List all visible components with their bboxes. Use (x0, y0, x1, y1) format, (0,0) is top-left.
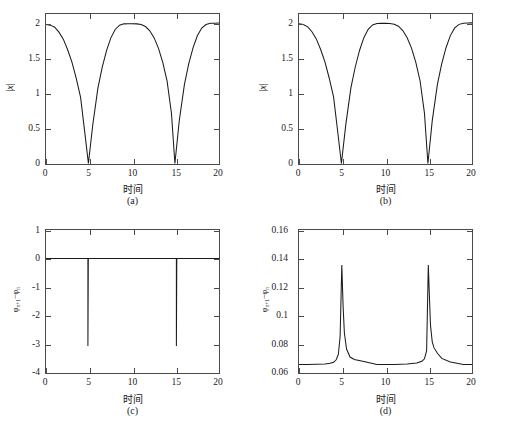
xtick-top-d-15 (430, 230, 431, 235)
ytick-a-0 (46, 164, 51, 165)
xtick-top-c-15 (177, 230, 178, 235)
figure-canvas: 0 5 10 15 20 0 0.5 1 1.5 2 |x| 时间 (a) (0, 0, 506, 423)
ytick-right-d-006 (467, 373, 472, 374)
ytick-right-c-1 (214, 231, 219, 232)
yticklabel-c-m3: -3 (0, 339, 40, 349)
xtick-a-10 (134, 159, 135, 164)
plot-area-d (298, 229, 473, 374)
ytick-d-014 (299, 259, 304, 260)
ytick-d-01 (299, 316, 304, 317)
yticklabel-a-2: 2 (0, 18, 40, 28)
axis-title-y-d: φn+1−φn (260, 272, 269, 328)
ytick-c-m2 (46, 316, 51, 317)
ytick-a-2 (46, 24, 51, 25)
xtick-d-20 (472, 368, 473, 373)
xticklabel-d-15: 15 (409, 377, 449, 387)
xtick-c-15 (177, 368, 178, 373)
ytick-b-0 (299, 164, 304, 165)
xticklabel-c-20: 20 (198, 377, 238, 387)
ytick-right-d-012 (467, 288, 472, 289)
xtick-top-b-15 (430, 14, 431, 19)
xtick-b-15 (430, 159, 431, 164)
xtick-top-d-10 (387, 230, 388, 235)
yticklabel-d-006: 0.06 (248, 367, 288, 377)
yticklabel-b-0: 0 (253, 158, 293, 168)
ytick-b-05 (299, 129, 304, 130)
xticklabel-b-0: 0 (278, 168, 318, 178)
xticklabel-a-20: 20 (198, 168, 238, 178)
xtick-b-5 (343, 159, 344, 164)
curve-c (46, 230, 219, 373)
xtick-top-a-5 (90, 14, 91, 19)
xticklabel-a-0: 0 (25, 168, 65, 178)
axis-title-x-b: 时间 (298, 181, 473, 196)
yticklabel-a-15: 1.5 (0, 53, 40, 63)
xticklabel-b-10: 10 (366, 168, 406, 178)
xtick-a-15 (177, 159, 178, 164)
ytick-right-a-15 (214, 59, 219, 60)
yticklabel-c-0: 0 (0, 253, 40, 263)
yticklabel-b-15: 1.5 (253, 53, 293, 63)
yticklabel-d-014: 0.14 (248, 253, 288, 263)
xticklabel-d-5: 5 (322, 377, 362, 387)
ytick-right-c-m3 (214, 345, 219, 346)
xticklabel-c-5: 5 (69, 377, 109, 387)
panel-caption-d: (d) (298, 405, 473, 416)
ytick-a-15 (46, 59, 51, 60)
panel-caption-a: (a) (45, 195, 220, 206)
xticklabel-b-5: 5 (322, 168, 362, 178)
panel-b: 0 5 10 15 20 0 0.5 1 1.5 2 |x| 时间 (b) (253, 0, 506, 211)
yticklabel-a-05: 0.5 (0, 123, 40, 133)
axis-title-y-b: |x| (257, 68, 268, 108)
panel-c: 0 5 10 15 20 -4 -3 -2 -1 0 1 φn+1−φn 时间 … (0, 211, 253, 422)
ytick-c-1 (46, 231, 51, 232)
panel-caption-b: (b) (298, 195, 473, 206)
xtick-d-5 (343, 368, 344, 373)
curve-b (299, 14, 472, 164)
ytick-right-a-0 (214, 164, 219, 165)
plot-area-b (298, 13, 473, 165)
xtick-b-10 (387, 159, 388, 164)
ytick-d-016 (299, 231, 304, 232)
curve-d (299, 230, 472, 373)
plot-area-a (45, 13, 220, 165)
yticklabel-c-m4: -4 (0, 367, 40, 377)
xticklabel-d-0: 0 (278, 377, 318, 387)
yticklabel-c-1: 1 (0, 225, 40, 235)
xtick-top-a-10 (134, 14, 135, 19)
xtick-top-b-5 (343, 14, 344, 19)
ytick-right-a-05 (214, 129, 219, 130)
xticklabel-c-10: 10 (113, 377, 153, 387)
xticklabel-c-15: 15 (156, 377, 196, 387)
xticklabel-c-0: 0 (25, 377, 65, 387)
axis-title-x-c: 时间 (45, 391, 220, 406)
xticklabel-a-10: 10 (113, 168, 153, 178)
ytick-right-c-m1 (214, 288, 219, 289)
panel-caption-c: (c) (45, 405, 220, 416)
yticklabel-d-016: 0.16 (248, 225, 288, 235)
xticklabel-a-5: 5 (69, 168, 109, 178)
ytick-right-a-2 (214, 24, 219, 25)
ytick-right-b-15 (467, 59, 472, 60)
xtick-c-20 (219, 368, 220, 373)
yticklabel-d-008: 0.08 (248, 339, 288, 349)
axis-title-x-a: 时间 (45, 181, 220, 196)
yticklabel-a-0: 0 (0, 158, 40, 168)
ytick-right-b-0 (467, 164, 472, 165)
ytick-right-c-0 (214, 259, 219, 260)
panel-a: 0 5 10 15 20 0 0.5 1 1.5 2 |x| 时间 (a) (0, 0, 253, 211)
xtick-c-5 (90, 368, 91, 373)
axis-title-y-c: φn+1−φn (11, 272, 20, 328)
axis-title-y-a: |x| (4, 68, 15, 108)
ytick-a-1 (46, 94, 51, 95)
ytick-d-008 (299, 345, 304, 346)
ytick-d-012 (299, 288, 304, 289)
xtick-b-20 (472, 159, 473, 164)
xticklabel-b-20: 20 (451, 168, 491, 178)
xtick-top-c-10 (134, 230, 135, 235)
ytick-right-a-1 (214, 94, 219, 95)
xtick-a-5 (90, 159, 91, 164)
panel-d: 0 5 10 15 20 0.06 0.08 0.1 0.12 0.14 0.1… (253, 211, 506, 422)
curve-a (46, 14, 219, 164)
xtick-top-a-15 (177, 14, 178, 19)
